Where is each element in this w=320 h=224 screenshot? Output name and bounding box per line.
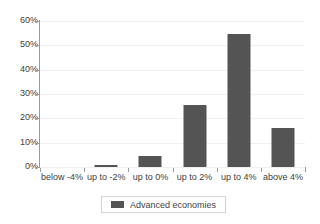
x-axis-tick — [217, 168, 218, 172]
x-axis-tick — [128, 168, 129, 172]
x-axis-tick — [40, 168, 41, 172]
legend-swatch-icon — [111, 201, 124, 208]
y-axis-tick-label: 10% — [2, 138, 38, 147]
bar[interactable] — [139, 156, 162, 167]
x-axis-tick — [305, 168, 306, 172]
y-axis-tick — [35, 118, 39, 119]
bar-slot — [128, 21, 172, 167]
y-axis-tick-label: 0% — [2, 162, 38, 171]
y-axis-tick — [35, 143, 39, 144]
bar-slot — [217, 21, 261, 167]
bar[interactable] — [183, 105, 206, 167]
x-axis-tick — [173, 168, 174, 172]
bar-chart: 0%10%20%30%40%50%60% below -4%up to -2%u… — [0, 0, 320, 224]
bar-slot — [84, 21, 128, 167]
x-axis-category-label: up to 0% — [128, 172, 172, 183]
y-axis-tick — [35, 45, 39, 46]
legend-label: Advanced economies — [130, 200, 216, 210]
y-axis-tick-label: 50% — [2, 40, 38, 49]
bar-slot — [261, 21, 305, 167]
bar[interactable] — [95, 165, 118, 167]
x-axis-category-labels: below -4%up to -2%up to 0%up to 2%up to … — [40, 172, 305, 186]
x-axis-tick — [261, 168, 262, 172]
y-axis-tick-label: 30% — [2, 89, 38, 98]
chart-legend: Advanced economies — [101, 196, 226, 213]
y-axis-tick — [35, 167, 39, 168]
x-axis-category-label: up to 2% — [173, 172, 217, 183]
plot-area — [40, 21, 305, 167]
x-axis-category-label: above 4% — [261, 172, 305, 183]
x-axis-category-label: up to 4% — [217, 172, 261, 183]
y-axis-tick — [35, 70, 39, 71]
bar[interactable] — [271, 128, 294, 167]
bar-slot — [40, 21, 84, 167]
bars-layer — [40, 21, 305, 167]
y-axis-tick — [35, 94, 39, 95]
x-axis-category-label: up to -2% — [84, 172, 128, 183]
bar[interactable] — [227, 34, 250, 167]
x-axis-tick — [84, 168, 85, 172]
y-axis-tick-label: 40% — [2, 65, 38, 74]
y-axis-tick — [35, 21, 39, 22]
bar-slot — [173, 21, 217, 167]
x-axis-category-label: below -4% — [40, 172, 84, 183]
y-axis-tick-label: 20% — [2, 113, 38, 122]
y-axis-tick-label: 60% — [2, 16, 38, 25]
